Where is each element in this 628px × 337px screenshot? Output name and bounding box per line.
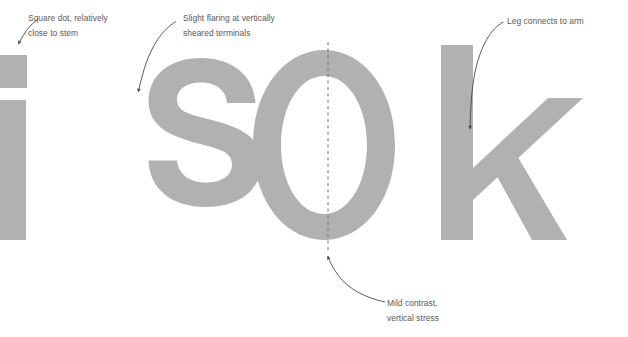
annotation-leg-connects-to-arm: Leg connects to arm bbox=[507, 14, 584, 29]
arrow-layer bbox=[0, 0, 628, 337]
arrow-flaring bbox=[138, 22, 176, 93]
annotation-flaring: Slight flaring at vertically sheared ter… bbox=[183, 11, 275, 40]
type-specimen-diagram: Square dot, relatively close to stem Sli… bbox=[0, 0, 628, 337]
annotation-square-dot: Square dot, relatively close to stem bbox=[28, 11, 108, 40]
arrow-contrast bbox=[328, 256, 385, 302]
annotation-mild-contrast: Mild contrast, vertical stress bbox=[387, 296, 439, 325]
arrow-leg-arm bbox=[470, 22, 503, 129]
